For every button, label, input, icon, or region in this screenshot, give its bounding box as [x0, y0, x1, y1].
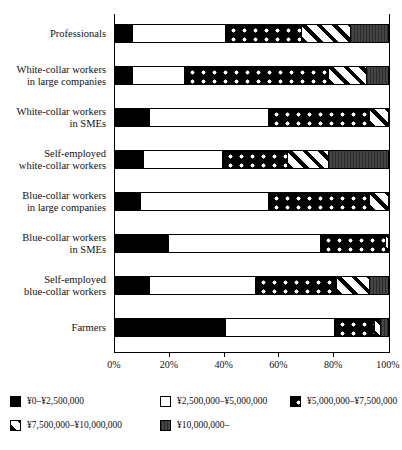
income-distribution-by-occupation-chart: ProfessionalsWhite-collar workersin larg… [0, 0, 402, 450]
y-axis-label: White-collar workersin SMEs [0, 106, 106, 129]
bar-segment [225, 319, 334, 336]
bar-segment [255, 277, 337, 294]
bar-segment [336, 277, 369, 294]
y-axis-label-line: Self-employed [0, 274, 106, 286]
bar-segment [116, 67, 132, 84]
bar-segment [132, 25, 224, 42]
legend-label: ¥10,000,000– [177, 420, 229, 431]
bar-segment [149, 109, 269, 126]
bar-row [115, 108, 389, 127]
legend-item: ¥10,000,000– [160, 420, 229, 431]
y-axis-label-line: Blue-collar workers [0, 190, 106, 202]
legend-label: ¥5,000,000–¥7,500,000 [307, 396, 397, 407]
bar-row [115, 192, 389, 211]
y-axis-label-line: White-collar workers [0, 106, 106, 118]
legend-label: ¥2,500,000–¥5,000,000 [177, 396, 267, 407]
y-axis-label: Self-employedwhite-collar workers [0, 148, 106, 171]
x-axis-tick [278, 352, 279, 357]
bar-segment [328, 151, 388, 168]
bar-segment [184, 67, 328, 84]
bar-segment [268, 193, 369, 210]
x-axis-tick-label: 20% [146, 359, 192, 370]
legend-swatch-icon [10, 420, 21, 431]
bar-segment [385, 235, 388, 252]
bar-segment [116, 193, 140, 210]
legend-item: ¥2,500,000–¥5,000,000 [160, 396, 267, 407]
y-axis-label-line: Self-employed [0, 148, 106, 160]
bar-segment [116, 277, 149, 294]
x-axis-tick [333, 352, 334, 357]
bar-segment [350, 25, 388, 42]
y-axis-label: White-collar workersin large companies [0, 64, 106, 87]
bar-segment [116, 151, 143, 168]
bar-segment [225, 25, 301, 42]
bar-segment [116, 25, 132, 42]
x-axis-tick-label: 0% [91, 359, 137, 370]
bar-row [115, 276, 389, 295]
legend-swatch-icon [10, 396, 21, 407]
bar-row [115, 66, 389, 85]
x-axis-tick [224, 352, 225, 357]
legend-label: ¥0–¥2,500,000 [27, 396, 84, 407]
y-axis-label: Professionals [0, 28, 106, 40]
bar-segment [301, 25, 350, 42]
legend-swatch-icon [160, 420, 171, 431]
legend-swatch-icon [290, 396, 301, 407]
bar-segment [380, 319, 388, 336]
y-axis-label: Blue-collar workersin SMEs [0, 232, 106, 255]
y-axis-label-line: Professionals [0, 28, 106, 40]
y-axis-label: Farmers [0, 322, 106, 334]
x-axis-tick-label: 60% [255, 359, 301, 370]
bar-segment [366, 67, 388, 84]
bar-row [115, 24, 389, 43]
bar-segment [168, 235, 320, 252]
bar-segment [143, 151, 222, 168]
bar-segment [116, 109, 149, 126]
bar-row [115, 234, 389, 253]
legend-item: ¥5,000,000–¥7,500,000 [290, 396, 397, 407]
chart-legend: ¥0–¥2,500,000¥2,500,000–¥5,000,000¥5,000… [0, 388, 402, 444]
legend-item: ¥7,500,000–¥10,000,000 [10, 420, 122, 431]
bar-segment [287, 151, 328, 168]
bar-segment [140, 193, 268, 210]
bar-segment [268, 109, 369, 126]
plot-area [114, 14, 390, 353]
bar-segment [132, 67, 184, 84]
y-axis-label-line: White-collar workers [0, 64, 106, 76]
legend-item: ¥0–¥2,500,000 [10, 396, 84, 407]
y-axis-label-line: in large companies [0, 202, 106, 214]
bar-segment [334, 319, 375, 336]
y-axis-label: Self-employedblue-collar workers [0, 274, 106, 297]
y-axis-label-line: in SMEs [0, 118, 106, 130]
y-axis-label-line: in large companies [0, 76, 106, 88]
bar-segment [328, 67, 366, 84]
bar-segment [116, 235, 168, 252]
legend-swatch-icon [160, 396, 171, 407]
bar-row [115, 150, 389, 169]
bar-segment [369, 193, 388, 210]
x-axis-tick [169, 352, 170, 357]
legend-label: ¥7,500,000–¥10,000,000 [27, 420, 122, 431]
y-axis-label-line: blue-collar workers [0, 286, 106, 298]
bar-segment [222, 151, 287, 168]
x-axis-tick-label: 80% [310, 359, 356, 370]
y-axis-label-line: in SMEs [0, 244, 106, 256]
y-axis-label-line: white-collar workers [0, 160, 106, 172]
x-axis-tick-label: 40% [201, 359, 247, 370]
bar-segment [116, 319, 225, 336]
bar-segment [320, 235, 385, 252]
y-axis-label: Blue-collar workersin large companies [0, 190, 106, 213]
x-axis-tick-label: 100% [365, 359, 402, 370]
bar-segment [369, 109, 388, 126]
bar-segment [149, 277, 255, 294]
y-axis-label-line: Farmers [0, 322, 106, 334]
y-axis-label-line: Blue-collar workers [0, 232, 106, 244]
bar-row [115, 318, 389, 337]
bar-segment [369, 277, 388, 294]
